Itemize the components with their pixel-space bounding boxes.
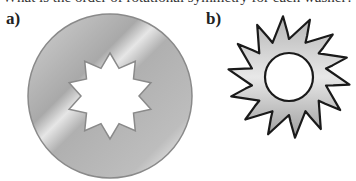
washer-a-shape [28, 14, 192, 178]
figures-canvas [0, 0, 356, 181]
washer-b-shape [229, 16, 350, 137]
